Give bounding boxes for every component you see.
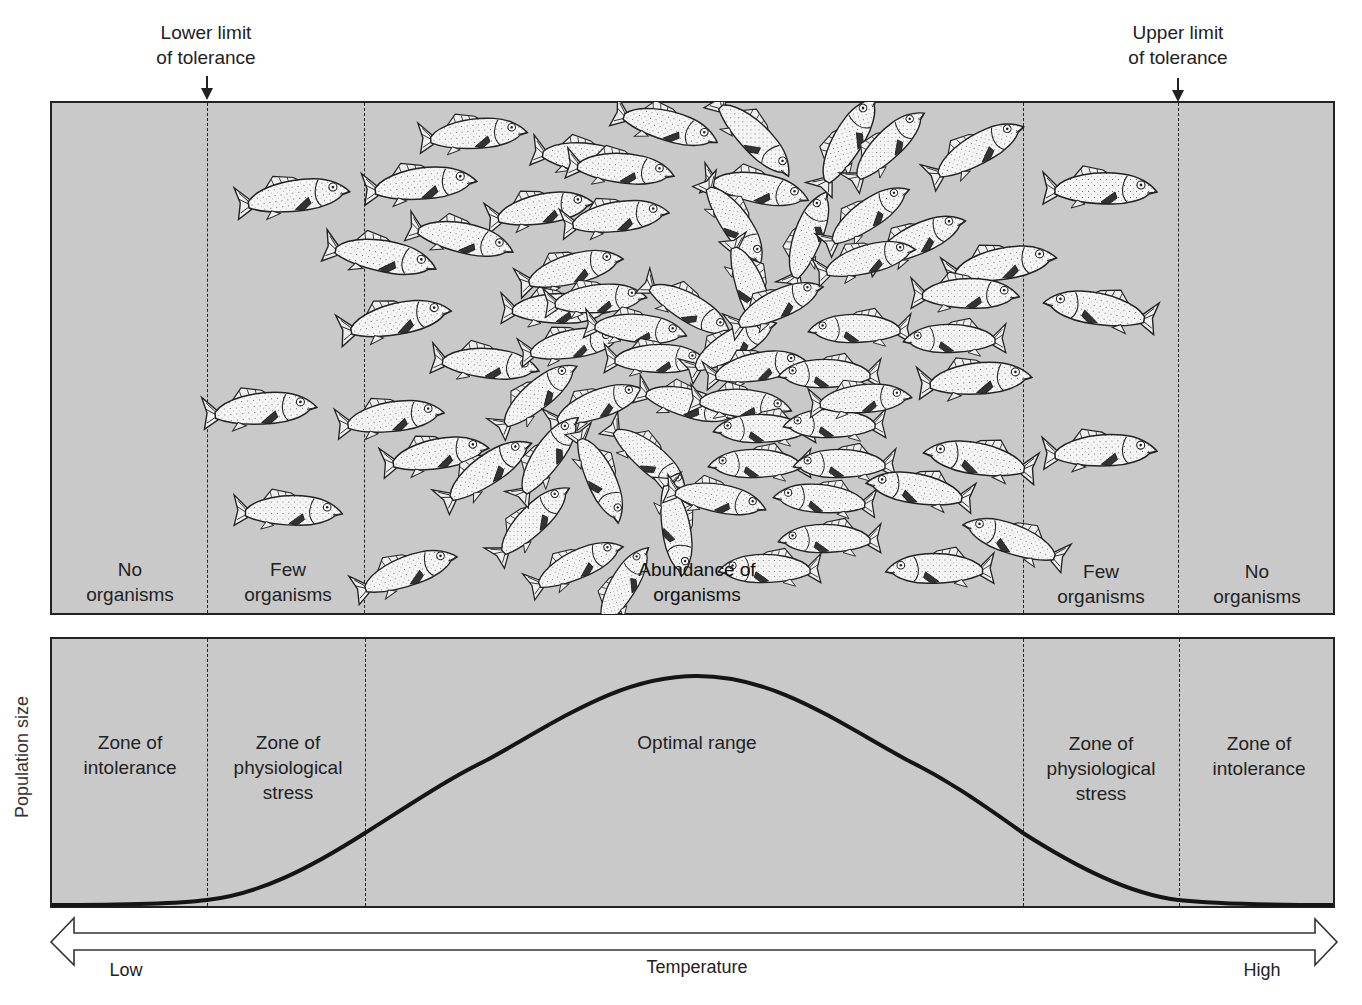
axis-title: Temperature	[646, 955, 747, 980]
axis-high-label: High	[1243, 958, 1280, 983]
temperature-axis-arrow	[0, 0, 1362, 1005]
axis-low-label: Low	[109, 958, 142, 983]
